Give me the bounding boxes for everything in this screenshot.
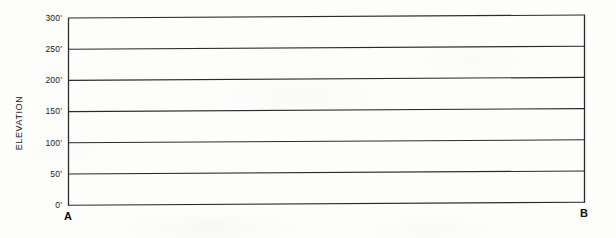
gridline-200	[68, 77, 585, 80]
y-tick-label-300: 300'	[24, 13, 62, 23]
y-tick-label-100: 100'	[24, 138, 62, 148]
y-tick-label-150: 150'	[24, 106, 62, 116]
y-axis-title: ELEVATION	[14, 83, 24, 163]
y-tick-label-250: 250'	[24, 44, 62, 54]
gridline-50	[68, 171, 585, 174]
y-tick-label-0: 0'	[24, 200, 62, 210]
endpoint-label-a: A	[64, 210, 72, 222]
grid-lines	[0, 0, 616, 238]
y-tick-label-200: 200'	[24, 75, 62, 85]
topographic-profile-figure: ELEVATION 300' 250' 200' 150' 100' 50' 0…	[0, 0, 616, 238]
y-tick-label-50: 50'	[24, 169, 62, 179]
gridline-300	[68, 15, 585, 18]
gridline-150	[68, 109, 585, 112]
gridline-0	[68, 202, 585, 205]
gridline-250	[68, 46, 585, 49]
gridline-100	[68, 140, 585, 143]
endpoint-label-b: B	[580, 207, 588, 219]
